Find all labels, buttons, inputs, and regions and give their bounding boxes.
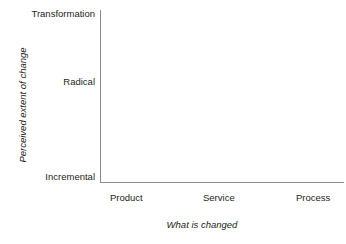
x-axis-title: What is changed — [0, 219, 346, 230]
y-axis-title: Perceived extent of change — [17, 47, 28, 162]
y-axis-line — [100, 10, 101, 183]
x-axis-line — [100, 182, 344, 183]
x-axis-tick-process: Process — [296, 192, 330, 203]
y-axis-tick-transformation: Transformation — [31, 8, 95, 19]
y-axis-tick-incremental: Incremental — [45, 171, 95, 182]
x-axis-tick-service: Service — [203, 192, 235, 203]
y-axis-tick-radical: Radical — [63, 76, 95, 87]
plot-area — [101, 10, 344, 182]
x-axis-tick-product: Product — [110, 192, 143, 203]
chart-figure: Transformation Radical Incremental Perce… — [0, 0, 346, 244]
